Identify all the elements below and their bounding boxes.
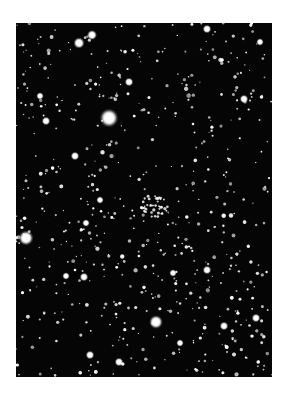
star <box>190 23 193 26</box>
star <box>94 175 96 177</box>
star <box>239 347 243 351</box>
star <box>77 221 79 223</box>
star <box>142 285 146 289</box>
star <box>27 187 29 189</box>
star <box>147 111 150 114</box>
star <box>161 279 163 281</box>
star <box>68 42 69 43</box>
star <box>41 207 43 209</box>
star <box>22 320 23 321</box>
star <box>31 279 34 282</box>
star <box>25 104 27 106</box>
star <box>144 358 148 362</box>
star <box>107 50 109 52</box>
star <box>126 79 133 86</box>
star <box>207 156 209 158</box>
star <box>186 93 192 99</box>
star <box>154 204 157 207</box>
star <box>239 250 241 252</box>
star <box>204 180 206 182</box>
star <box>115 26 117 28</box>
star <box>157 275 159 277</box>
star <box>181 243 183 245</box>
star <box>250 92 252 94</box>
star <box>80 239 82 241</box>
star <box>33 133 35 135</box>
star <box>58 110 60 112</box>
star <box>178 348 180 350</box>
star <box>162 51 164 53</box>
star <box>71 245 73 247</box>
star <box>175 116 176 117</box>
star <box>156 215 159 218</box>
star <box>74 269 77 272</box>
star <box>104 233 105 234</box>
star <box>86 262 87 263</box>
star <box>221 323 228 330</box>
star <box>118 302 121 305</box>
star <box>156 59 159 62</box>
star <box>141 291 144 294</box>
star <box>25 314 30 319</box>
star <box>144 188 146 190</box>
star <box>212 48 215 51</box>
star <box>19 44 21 46</box>
star <box>39 189 44 194</box>
star <box>207 53 209 55</box>
star <box>261 273 264 276</box>
star <box>88 231 91 234</box>
star <box>153 367 156 370</box>
star <box>250 334 253 337</box>
star <box>84 163 86 165</box>
star <box>117 263 119 265</box>
star <box>156 125 157 126</box>
star <box>184 238 187 241</box>
star <box>205 261 206 262</box>
star <box>55 171 58 174</box>
star <box>90 238 92 240</box>
star <box>64 282 66 284</box>
star <box>222 225 224 227</box>
star <box>55 214 57 216</box>
star <box>227 157 229 159</box>
star <box>90 364 92 366</box>
star <box>153 273 154 274</box>
star <box>108 143 112 147</box>
star <box>223 231 225 233</box>
star <box>25 49 27 51</box>
star <box>86 147 89 150</box>
star <box>219 125 222 128</box>
star <box>193 170 195 172</box>
star <box>229 295 234 300</box>
star <box>85 321 87 323</box>
star <box>228 213 234 219</box>
star <box>260 319 263 322</box>
star <box>16 25 17 26</box>
star <box>21 336 23 338</box>
star <box>188 245 190 247</box>
star <box>23 114 25 116</box>
star <box>246 319 247 320</box>
star <box>210 211 213 214</box>
star <box>20 102 22 104</box>
star <box>63 230 65 232</box>
star <box>177 35 178 36</box>
star <box>67 261 69 263</box>
star <box>29 289 31 291</box>
star <box>157 211 160 214</box>
star <box>236 108 238 110</box>
star <box>195 282 196 283</box>
star <box>26 87 28 89</box>
star <box>188 222 189 223</box>
star <box>243 281 245 283</box>
star <box>66 241 67 242</box>
star <box>193 319 195 321</box>
star <box>252 89 255 92</box>
star <box>151 78 153 80</box>
star <box>221 213 227 219</box>
star <box>241 96 248 103</box>
star <box>88 31 96 39</box>
star <box>166 205 169 208</box>
star <box>93 263 95 265</box>
star <box>248 324 251 327</box>
